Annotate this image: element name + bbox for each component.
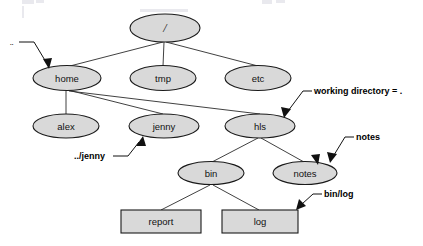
callout-relative-binlog: bin/log — [296, 189, 354, 210]
node-bin-label: bin — [205, 168, 218, 179]
node-home[interactable]: home — [33, 66, 101, 91]
node-notes[interactable]: notes — [273, 162, 337, 185]
node-etc-label: etc — [252, 73, 265, 84]
callout-relative-notes-arrowhead — [327, 152, 337, 163]
filesystem-tree-diagram: / home tmp etc alex jenny — [0, 0, 423, 246]
callout-relative-binlog-leader — [302, 194, 322, 204]
callout-working-directory-label: working directory = . — [313, 86, 402, 96]
node-home-label: home — [55, 73, 79, 84]
node-bin[interactable]: bin — [178, 162, 244, 185]
node-log-label: log — [254, 216, 267, 227]
callout-relative-notes-label: notes — [356, 132, 380, 142]
node-report-label: report — [149, 216, 174, 227]
callout-relative-jenny-label: ../jenny — [74, 151, 105, 161]
edge-root-tmp — [163, 42, 164, 66]
callout-relative-binlog-arrowhead — [296, 199, 306, 210]
callout-parent-label: .. — [10, 40, 14, 46]
node-log[interactable]: log — [222, 210, 298, 233]
node-etc[interactable]: etc — [225, 66, 291, 91]
callout-parent-leader — [19, 42, 46, 62]
callout-parent: .. — [10, 40, 52, 69]
node-alex[interactable]: alex — [33, 114, 99, 138]
callout-relative-notes-leader — [334, 137, 354, 155]
callout-relative-jenny-arrowhead — [136, 136, 146, 146]
edge-root-etc — [166, 42, 258, 66]
node-hls[interactable]: hls — [225, 114, 295, 138]
node-notes-label: notes — [293, 168, 316, 179]
callout-working-directory-leader — [288, 91, 312, 111]
node-hls-label: hls — [254, 121, 266, 132]
node-tmp-label: tmp — [155, 73, 171, 84]
edge-hls-notes — [261, 138, 304, 162]
callout-relative-jenny-leader — [113, 142, 139, 156]
edge-home-jenny — [68, 90, 163, 114]
node-report[interactable]: report — [121, 210, 201, 233]
node-alex-label: alex — [57, 121, 75, 132]
diagram-canvas: / home tmp etc alex jenny — [0, 0, 423, 246]
node-root[interactable]: / — [130, 14, 200, 42]
callout-relative-jenny: ../jenny — [74, 136, 146, 161]
edge-root-home — [70, 42, 163, 66]
edge-bin-log — [213, 185, 259, 210]
node-tmp[interactable]: tmp — [130, 66, 196, 91]
edge-home-hls — [69, 91, 260, 114]
edge-bin-report — [161, 185, 210, 210]
node-jenny-label: jenny — [152, 121, 176, 132]
node-jenny[interactable]: jenny — [129, 114, 199, 138]
callout-working-directory: working directory = . — [281, 86, 402, 118]
edge-hls-bin — [212, 138, 258, 162]
callout-relative-binlog-label: bin/log — [324, 189, 354, 199]
callout-relative-notes: notes — [327, 132, 380, 163]
